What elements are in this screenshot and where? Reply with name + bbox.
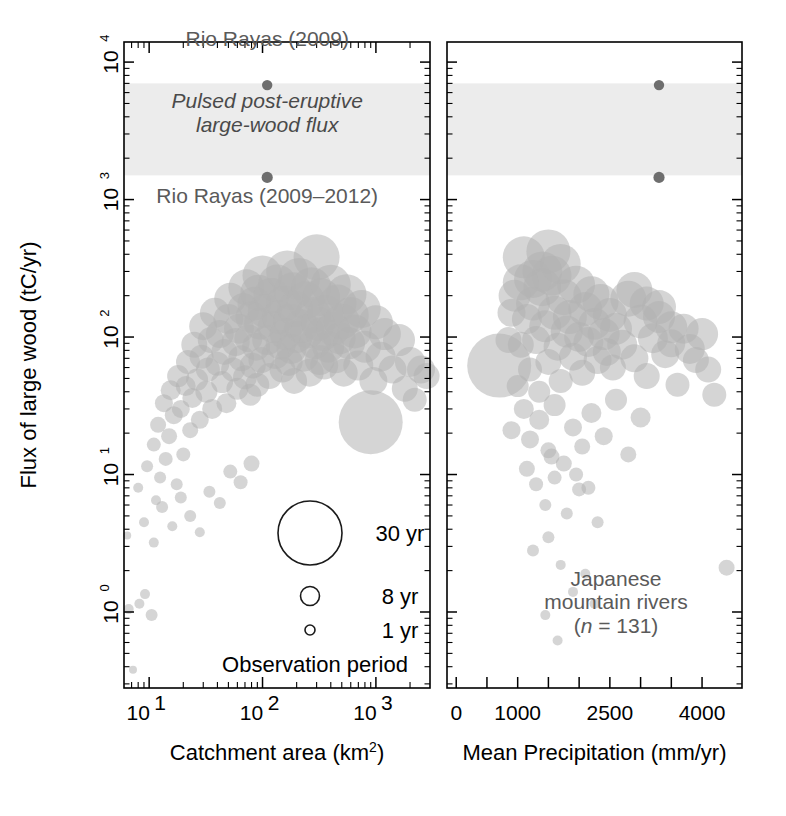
x-tick-label: 10: [353, 701, 376, 724]
data-bubble: [605, 389, 627, 411]
data-bubble: [496, 327, 522, 353]
data-bubble: [195, 527, 205, 537]
data-bubble: [634, 363, 660, 389]
data-bubble: [553, 636, 563, 646]
data-bubble: [403, 388, 427, 412]
japanese-rivers-line3: (n = 131): [574, 614, 659, 637]
data-bubble: [574, 439, 590, 455]
figure-container: 100101102103104101102103Catchment area (…: [0, 0, 786, 816]
data-bubble: [503, 421, 521, 439]
y-tick-exponent: 2: [97, 309, 112, 316]
legend-label-1-yr: 1 yr: [382, 618, 419, 643]
data-bubble: [147, 438, 161, 452]
band-label-line1: Pulsed post-eruptive: [171, 89, 362, 112]
data-bubble: [702, 383, 726, 407]
y-tick-label: 10: [99, 325, 122, 348]
data-bubble: [719, 560, 735, 576]
y-tick-exponent: 1: [97, 447, 112, 454]
data-bubble: [544, 449, 560, 465]
data-bubble: [133, 483, 143, 493]
data-bubble: [234, 475, 248, 489]
data-bubble: [539, 499, 551, 511]
japanese-rivers-line1: Japanese: [570, 567, 661, 590]
panel-right: 0100025004000Mean Precipitation (mm/yr)J…: [447, 42, 742, 765]
rio-rayas-2009-2012-label: Rio Rayas (2009–2012): [156, 184, 378, 207]
data-bubble: [529, 410, 549, 430]
size-legend: 30 yr8 yr1 yrObservation period: [222, 501, 424, 677]
data-bubble: [161, 428, 177, 444]
legend-label-30-yr: 30 yr: [376, 521, 425, 546]
data-bubble: [544, 394, 566, 416]
data-bubble: [129, 666, 137, 674]
data-bubble: [541, 244, 581, 284]
data-bubble: [167, 521, 177, 531]
legend-circle-30-yr: [278, 501, 342, 565]
data-bubble: [581, 481, 595, 495]
data-bubble: [159, 452, 173, 466]
data-bubble: [140, 589, 150, 599]
data-bubble: [223, 465, 237, 479]
data-bubble: [175, 492, 187, 504]
band-label-line2: large-wood flux: [196, 113, 340, 136]
rio-rayas-2009-label: Rio Rayas (2009): [186, 27, 349, 50]
data-bubble: [548, 471, 562, 485]
data-bubble: [669, 314, 699, 344]
x-tick-label: 4000: [679, 701, 726, 724]
x-tick-exponent: 2: [268, 691, 280, 714]
y-tick-label: 10: [99, 188, 122, 211]
x-tick-label: 0: [450, 701, 462, 724]
data-bubble: [581, 403, 601, 423]
data-bubble: [339, 390, 403, 454]
y-tick-exponent: 4: [97, 34, 112, 41]
data-bubble: [595, 427, 613, 445]
x-tick-exponent: 1: [154, 691, 166, 714]
data-bubble: [519, 461, 535, 477]
x-axis-title: Mean Precipitation (mm/yr): [462, 740, 726, 765]
data-bubble: [154, 472, 166, 484]
x-axis-title: Catchment area (km2): [170, 739, 384, 765]
data-bubble: [146, 609, 158, 621]
y-tick-label: 10: [99, 50, 122, 73]
x-tick-label: 10: [126, 701, 149, 724]
data-bubble: [683, 347, 709, 373]
y-tick-label: 10: [99, 600, 122, 623]
legend-circle-1-yr: [305, 625, 315, 635]
x-axis-right: 0100025004000Mean Precipitation (mm/yr)J…: [450, 567, 726, 765]
x-tick-label: 2500: [587, 701, 634, 724]
data-bubble: [592, 516, 604, 528]
data-bubble: [141, 460, 153, 472]
data-bubble: [529, 477, 543, 491]
y-tick-exponent: 0: [97, 584, 112, 591]
data-bubble: [556, 560, 566, 570]
data-bubble: [542, 531, 554, 543]
x-tick-label: 1000: [494, 701, 541, 724]
x-tick-label: 10: [240, 701, 263, 724]
x-tick-exponent: 3: [381, 691, 393, 714]
data-bubble: [184, 510, 196, 522]
y-axis-title: Flux of large wood (tC/yr): [16, 242, 41, 489]
legend-title: Observation period: [222, 652, 408, 677]
data-bubble: [521, 430, 539, 448]
rio-rayas-2009-point-right: [654, 80, 664, 90]
data-bubble: [564, 418, 582, 436]
data-bubble: [620, 446, 636, 462]
y-tick-exponent: 3: [97, 172, 112, 179]
data-bubble: [203, 486, 215, 498]
japanese-rivers-line2: mountain rivers: [544, 590, 688, 613]
legend-label-8-yr: 8 yr: [382, 584, 419, 609]
data-bubble: [156, 501, 168, 513]
data-bubble: [214, 497, 226, 509]
data-bubble: [549, 369, 573, 393]
y-tick-label: 10: [99, 463, 122, 486]
legend-circle-8-yr: [301, 587, 320, 606]
data-bubble: [134, 599, 144, 609]
data-bubble: [631, 408, 651, 428]
data-bubble: [244, 456, 260, 472]
data-bubble: [561, 508, 573, 520]
data-bubble: [171, 478, 183, 490]
data-bubble: [569, 468, 583, 482]
scatter-figure: 100101102103104101102103Catchment area (…: [0, 0, 786, 816]
rio-rayas-2009-2012-point: [262, 172, 273, 183]
rio-rayas-2009-2012-point-right: [653, 172, 664, 183]
data-bubble: [139, 517, 149, 527]
